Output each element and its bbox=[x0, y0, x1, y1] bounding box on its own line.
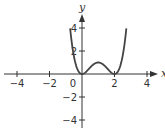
function-curve bbox=[70, 28, 126, 74]
x-axis-arrow-icon bbox=[150, 71, 158, 77]
x-tick-label: −4 bbox=[10, 78, 25, 89]
x-tick-label: 0 bbox=[70, 78, 76, 89]
y-axis: y bbox=[78, 1, 86, 128]
y-tick-label: −2 bbox=[62, 92, 77, 103]
y-axis-arrow-icon bbox=[79, 14, 85, 22]
x-tick-label: 4 bbox=[144, 78, 150, 89]
x-tick-label: 2 bbox=[111, 78, 117, 89]
y-tick-label: −4 bbox=[62, 115, 77, 126]
y-tick-label: 4 bbox=[71, 23, 77, 34]
x-tick-label: −2 bbox=[42, 78, 57, 89]
x-axis-label: x bbox=[161, 67, 165, 80]
y-axis-label: y bbox=[78, 1, 86, 14]
function-graph: x y −4−2024 −4−224 bbox=[0, 0, 165, 134]
